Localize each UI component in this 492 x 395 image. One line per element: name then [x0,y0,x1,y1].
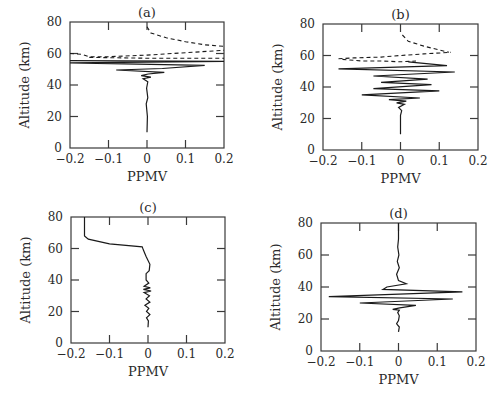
y-axis-title: Altitude (km) [18,236,33,324]
x-tick-label: 0 [395,355,403,369]
panel-label: (d) [389,206,407,221]
x-axis-title: PPMV [127,169,168,184]
y-tick-label: 80 [48,210,63,224]
x-tick-label: 0.1 [428,355,447,369]
y-tick-label: 20 [300,112,315,126]
y-tick-label: 60 [300,49,315,63]
y-tick-label: 80 [300,17,315,31]
x-tick-label: −0.1 [95,347,124,361]
series-solid [70,61,224,133]
series-solid [329,223,463,332]
series-dashed-inner [342,59,416,61]
y-tick-label: 40 [298,280,313,294]
x-tick-label: 0 [143,152,151,166]
y-tick-label: 60 [47,47,62,61]
panel-b: −0.2−0.100.10.2020406080PPMVAltitude (km… [270,7,488,186]
y-tick-label: 60 [298,248,313,262]
y-tick-label: 0 [55,336,63,350]
x-tick-label: 0.1 [430,154,449,168]
y-tick-label: 0 [307,143,315,157]
series-solid [85,217,152,327]
x-tick-label: 0 [397,154,405,168]
x-tick-label: −0.1 [94,152,123,166]
x-tick-label: 0.2 [466,355,485,369]
x-tick-label: 0.2 [215,347,234,361]
y-tick-label: 80 [47,15,62,29]
x-tick-label: 0.1 [176,152,195,166]
series-dashed-lower [70,50,224,56]
series-dashed-lower [339,52,451,58]
x-tick-label: 0 [144,347,152,361]
panel-label: (a) [138,5,156,20]
panel-label: (b) [391,7,409,22]
y-axis-title: Altitude (km) [270,43,285,131]
y-tick-label: 0 [305,344,313,358]
series-dashed-inner [89,57,224,58]
y-axis-title: Altitude (km) [268,243,283,331]
x-tick-label: −0.1 [347,154,376,168]
panel-c: −0.2−0.100.10.2020406080PPMVAltitude (km… [18,200,235,379]
panel-d: −0.2−0.100.10.2020406080PPMVAltitude (km… [268,206,486,387]
x-tick-label: −0.1 [345,355,374,369]
x-tick-label: 0.2 [468,154,487,168]
y-tick-label: 20 [48,305,63,319]
figure-canvas: −0.2−0.100.10.2020406080PPMVAltitude (km… [0,0,492,395]
y-axis-title: Altitude (km) [17,41,32,129]
x-tick-label: 0.1 [177,347,196,361]
x-axis-title: PPMV [128,364,169,379]
y-tick-label: 40 [48,273,63,287]
y-tick-label: 20 [298,312,313,326]
series-dashed-upper [402,35,449,52]
y-tick-label: 80 [298,216,313,230]
y-tick-label: 40 [47,78,62,92]
panel-a: −0.2−0.100.10.2020406080PPMVAltitude (km… [17,5,234,184]
x-axis-title: PPMV [380,171,421,186]
y-tick-label: 0 [54,141,62,155]
y-tick-label: 60 [48,242,63,256]
x-axis-title: PPMV [378,372,419,387]
panel-label: (c) [139,200,156,215]
y-tick-label: 20 [47,110,62,124]
x-tick-label: 0.2 [214,152,233,166]
y-tick-label: 40 [300,80,315,94]
series-solid [339,62,455,135]
